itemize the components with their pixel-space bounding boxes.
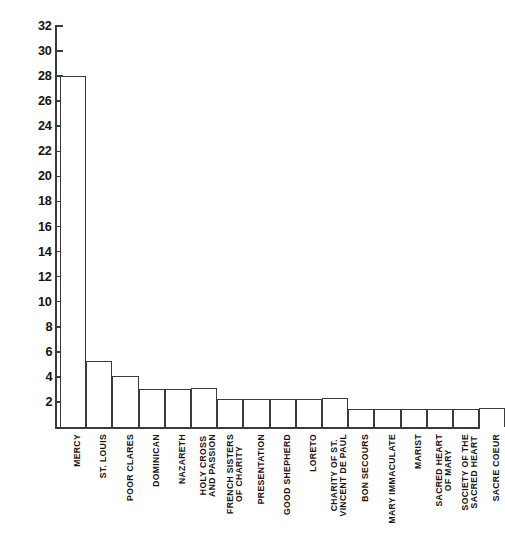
x-axis-label-text: CHARITY OF ST.VINCENT DE PAUL xyxy=(330,434,349,516)
x-axis-label-text: NAZARETH xyxy=(178,434,187,484)
bar xyxy=(374,409,400,427)
x-axis-label-text: MERCY xyxy=(73,434,82,467)
bar xyxy=(270,399,296,427)
bar xyxy=(348,409,374,427)
bar xyxy=(427,409,453,427)
x-axis-label-line: MARIST xyxy=(413,434,423,469)
x-axis-label-line: AND PASSION xyxy=(209,434,218,497)
bar xyxy=(112,376,138,427)
bar xyxy=(191,388,217,427)
x-axis-label-line: SACRED HEART xyxy=(471,434,480,510)
x-axis-label-line: ST. LOUIS xyxy=(98,434,108,478)
x-axis-label-text: PRESENTATION xyxy=(257,434,266,504)
x-axis-label-line: OF CHARITY xyxy=(235,434,244,514)
bar xyxy=(453,409,479,427)
bar xyxy=(60,76,86,427)
x-axis-label-line: DOMINICAN xyxy=(151,434,161,487)
bar xyxy=(139,389,165,427)
x-axis-label-line: POOR CLARES xyxy=(125,434,135,501)
x-axis-label-line: NAZARETH xyxy=(177,434,187,484)
x-axis-label-line: LORETO xyxy=(308,434,318,472)
x-axis-label-line: PRESENTATION xyxy=(256,434,266,504)
x-axis-label-line: BON SECOURS xyxy=(360,434,370,502)
x-axis-label-line: MERCY xyxy=(72,434,82,467)
bar xyxy=(217,399,243,427)
x-axis-label-text: POOR CLARES xyxy=(126,434,135,501)
bar xyxy=(86,361,112,427)
bar xyxy=(243,399,269,427)
x-axis-label-text: ST. LOUIS xyxy=(99,434,108,478)
x-axis-label-line: VINCENT DE PAUL xyxy=(340,434,349,516)
x-axis-label-text: SACRE COEUR xyxy=(492,434,501,501)
x-axis-label-text: MARY IMMACULATE xyxy=(388,434,397,524)
bar xyxy=(401,409,427,427)
bar xyxy=(165,389,191,427)
bar xyxy=(322,398,348,427)
x-axis-label-text: DOMINICAN xyxy=(152,434,161,487)
x-axis-label-line: SACRE COEUR xyxy=(491,434,501,501)
bar xyxy=(479,408,505,427)
x-axis-label-text: LORETO xyxy=(309,434,318,472)
x-axis-label-text: MARIST xyxy=(414,434,423,469)
bar xyxy=(296,399,322,427)
x-axis-label-text: HOLY CROSSAND PASSION xyxy=(199,434,218,497)
x-axis-label-line: GOOD SHEPHERD xyxy=(282,434,292,515)
x-axis-label-text: BON SECOURS xyxy=(361,434,370,502)
x-axis-label-line: MARY IMMACULATE xyxy=(387,434,397,524)
x-axis-label-text: SOCIETY OF THESACRED HEART xyxy=(461,434,480,510)
x-axis-label-text: GOOD SHEPHERD xyxy=(283,434,292,515)
x-axis-label-text: SACRED HEARTOF MARY xyxy=(435,434,454,506)
x-axis-label-line: OF MARY xyxy=(445,434,454,506)
x-axis-label-line: FRENCH SISTERS xyxy=(225,434,235,514)
x-axis-label-text: FRENCH SISTERSOF CHARITY xyxy=(226,434,245,514)
